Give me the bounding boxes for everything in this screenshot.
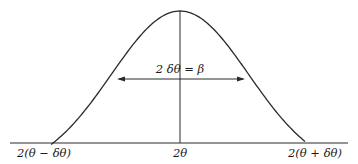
center-label: 2θ — [172, 146, 187, 160]
arrowhead-right-icon — [237, 77, 245, 82]
arrowhead-left-icon — [117, 77, 125, 82]
left-base-label: 2(θ − δθ) — [16, 146, 71, 160]
right-base-label: 2(θ + δθ) — [287, 146, 342, 160]
peak-diagram: 2 δθ = β 2(θ − δθ) 2θ 2(θ + δθ) — [0, 0, 358, 164]
peak-curve — [51, 11, 305, 145]
width-annotation-label: 2 δθ = β — [155, 62, 205, 76]
